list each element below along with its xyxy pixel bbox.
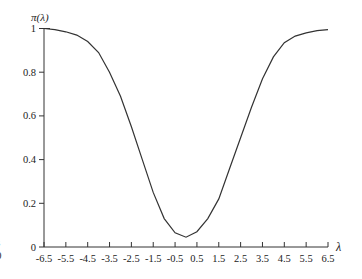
cropped-text-fragment: 0 <box>0 249 6 262</box>
y-tick-label: 1 <box>31 23 36 34</box>
cropped-text-fragment: s <box>0 236 6 249</box>
y-tick-label: 0.6 <box>23 110 36 121</box>
power-curve-chart: 00.20.40.60.81 -6.5-5.5-4.5-3.5-2.5-1.5-… <box>0 0 362 279</box>
power-curve-line <box>44 29 328 238</box>
x-tick-label: 0.5 <box>190 253 203 264</box>
y-tick-label: 0.4 <box>23 154 37 165</box>
cropped-adjacent-text: lfs0. <box>0 211 6 274</box>
x-axis: -6.5-5.5-4.5-3.5-2.5-1.5-0.50.51.52.53.5… <box>36 242 335 264</box>
x-tick-label: -4.5 <box>79 253 96 264</box>
cropped-text-fragment: . <box>0 261 6 274</box>
x-tick-label: 6.5 <box>321 253 334 264</box>
y-axis-label: π(λ) <box>31 11 49 24</box>
x-tick-label: 2.5 <box>234 253 247 264</box>
x-tick-label: -3.5 <box>101 253 118 264</box>
cropped-text-fragment: l <box>0 211 6 224</box>
y-axis: 00.20.40.60.81 <box>23 23 50 253</box>
cropped-text-fragment: f <box>0 224 6 237</box>
x-tick-label: 5.5 <box>300 253 313 264</box>
y-tick-label: 0.8 <box>23 67 36 78</box>
x-tick-label: -6.5 <box>36 253 53 264</box>
y-tick-label: 0 <box>31 242 36 253</box>
x-tick-label: 1.5 <box>212 253 225 264</box>
x-tick-label: -0.5 <box>167 253 184 264</box>
y-tick-label: 0.2 <box>23 198 36 209</box>
x-tick-label: 4.5 <box>278 253 291 264</box>
x-tick-label: 3.5 <box>256 253 269 264</box>
x-axis-label: λ <box>335 240 341 254</box>
x-tick-label: -1.5 <box>145 253 162 264</box>
x-tick-label: -2.5 <box>123 253 140 264</box>
x-tick-label: -5.5 <box>58 253 75 264</box>
